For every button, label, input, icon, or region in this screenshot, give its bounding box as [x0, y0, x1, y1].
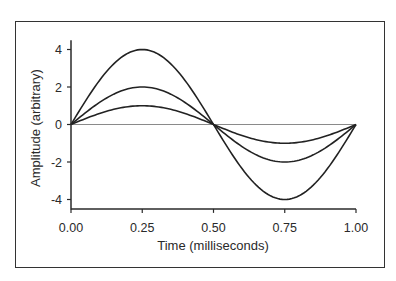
y-tick-label: -2 — [51, 156, 62, 170]
y-tick-label: -4 — [51, 193, 62, 207]
x-tick-label: 0.00 — [59, 221, 83, 235]
y-tick-label: 4 — [55, 43, 62, 57]
x-tick-label: 0.75 — [273, 221, 297, 235]
x-tick-label: 1.00 — [344, 221, 368, 235]
line-chart: 420-2-4 0.000.250.500.751.00 Time (milli… — [0, 0, 396, 281]
x-axis-ticks: 0.000.250.500.751.00 — [59, 209, 368, 235]
y-axis-ticks: 420-2-4 — [51, 43, 71, 207]
y-tick-label: 0 — [55, 118, 62, 132]
x-tick-label: 0.25 — [130, 221, 154, 235]
x-axis-title: Time (milliseconds) — [157, 238, 268, 253]
x-tick-label: 0.50 — [201, 221, 225, 235]
y-axis-title: Amplitude (arbitrary) — [28, 69, 43, 187]
y-tick-label: 2 — [55, 81, 62, 95]
